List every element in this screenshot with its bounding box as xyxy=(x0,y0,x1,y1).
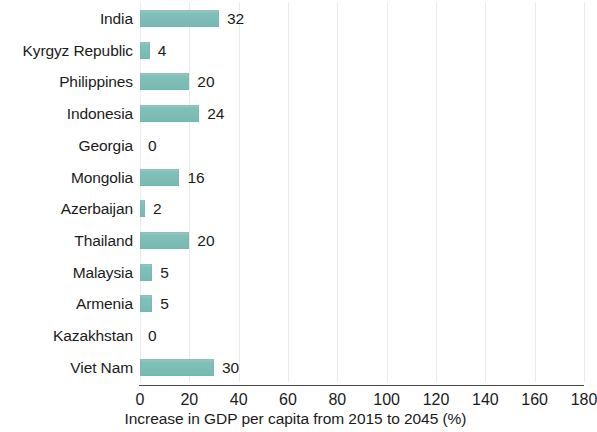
bar-row: Georgia0 xyxy=(0,131,591,161)
bar-indonesia xyxy=(140,105,199,122)
bar-row: Malaysia5 xyxy=(0,258,591,288)
bar-india xyxy=(140,10,219,27)
bar-row: Indonesia24 xyxy=(0,99,591,129)
category-label-philippines: Philippines xyxy=(0,67,133,97)
bar-azerbaijan xyxy=(140,200,145,217)
x-tick-60: 60 xyxy=(279,388,297,412)
category-label-viet-nam: Viet Nam xyxy=(0,353,133,383)
category-label-kazakhstan: Kazakhstan xyxy=(0,321,133,351)
bar-row: Kazakhstan0 xyxy=(0,321,591,351)
x-tick-80: 80 xyxy=(328,388,346,412)
category-label-azerbaijan: Azerbaijan xyxy=(0,194,133,224)
value-label-kyrgyz-republic: 4 xyxy=(158,36,167,66)
bar-row: Armenia5 xyxy=(0,289,591,319)
chart-plot-area: India32Kyrgyz Republic4Philippines20Indo… xyxy=(0,0,591,384)
x-tick-40: 40 xyxy=(230,388,248,412)
bar-row: Viet Nam30 xyxy=(0,353,591,383)
bar-armenia xyxy=(140,295,152,312)
value-label-viet-nam: 30 xyxy=(222,353,239,383)
bar-mongolia xyxy=(140,169,179,186)
x-axis-tick-labels: 020406080100120140160180 xyxy=(0,388,591,412)
bar-row: Philippines20 xyxy=(0,67,591,97)
x-tick-180: 180 xyxy=(571,388,597,412)
x-axis-line xyxy=(139,385,584,386)
bar-row: India32 xyxy=(0,4,591,34)
x-axis-title: Increase in GDP per capita from 2015 to … xyxy=(0,410,591,428)
category-label-georgia: Georgia xyxy=(0,131,133,161)
x-tick-0: 0 xyxy=(136,388,145,412)
x-tick-160: 160 xyxy=(521,388,548,412)
bar-row: Kyrgyz Republic4 xyxy=(0,36,591,66)
bar-row: Thailand20 xyxy=(0,226,591,256)
category-label-kyrgyz-republic: Kyrgyz Republic xyxy=(0,36,133,66)
value-label-kazakhstan: 0 xyxy=(148,321,157,351)
x-tick-20: 20 xyxy=(180,388,198,412)
bar-philippines xyxy=(140,73,189,90)
value-label-malaysia: 5 xyxy=(160,258,169,288)
category-label-indonesia: Indonesia xyxy=(0,99,133,129)
value-label-georgia: 0 xyxy=(148,131,157,161)
value-label-thailand: 20 xyxy=(197,226,214,256)
category-label-india: India xyxy=(0,4,133,34)
x-tick-120: 120 xyxy=(423,388,450,412)
value-label-armenia: 5 xyxy=(160,289,169,319)
category-label-armenia: Armenia xyxy=(0,289,133,319)
bar-kyrgyz-republic xyxy=(140,42,150,59)
bar-malaysia xyxy=(140,264,152,281)
bar-thailand xyxy=(140,232,189,249)
bar-row: Azerbaijan2 xyxy=(0,194,591,224)
bar-viet-nam xyxy=(140,359,214,376)
category-label-mongolia: Mongolia xyxy=(0,163,133,193)
value-label-india: 32 xyxy=(227,4,244,34)
bar-row: Mongolia16 xyxy=(0,163,591,193)
x-tick-140: 140 xyxy=(472,388,499,412)
x-tick-100: 100 xyxy=(373,388,400,412)
value-label-mongolia: 16 xyxy=(187,163,204,193)
category-label-malaysia: Malaysia xyxy=(0,258,133,288)
value-label-azerbaijan: 2 xyxy=(153,194,162,224)
category-label-thailand: Thailand xyxy=(0,226,133,256)
value-label-philippines: 20 xyxy=(197,67,214,97)
value-label-indonesia: 24 xyxy=(207,99,224,129)
